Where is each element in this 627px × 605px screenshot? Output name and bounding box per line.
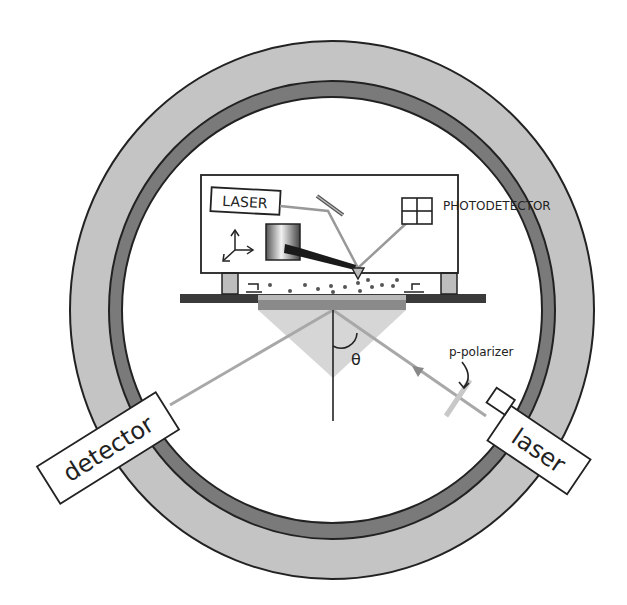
afm-leg-right [441, 273, 457, 294]
photodetector-icon [402, 198, 432, 224]
internal-laser-label: LASER [222, 193, 268, 211]
spr-afm-diagram: p-polarizer θ LASER [0, 0, 627, 605]
afm-leg-left [222, 273, 238, 294]
theta-label: θ [351, 350, 361, 369]
polarizer-label: p-polarizer [449, 345, 514, 359]
internal-laser: LASER [210, 187, 280, 215]
photodetector-label: PHOTODETECTOR [443, 199, 551, 213]
